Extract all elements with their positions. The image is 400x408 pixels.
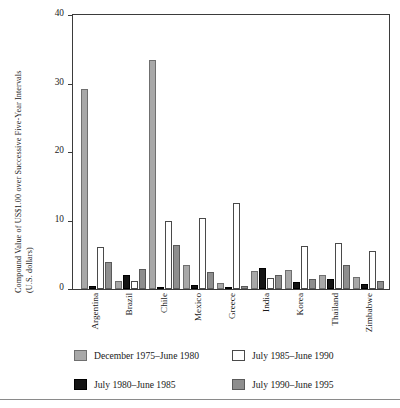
bottom-divider	[0, 399, 400, 400]
bar	[285, 270, 292, 289]
bar-group-zimbabwe	[351, 15, 385, 289]
chart-figure: Compound Value of US$1.00 over Successiv…	[0, 0, 400, 408]
legend-label: July 1985–June 1990	[252, 350, 334, 361]
bar	[293, 282, 300, 289]
bar	[275, 275, 282, 289]
bar	[97, 247, 104, 289]
y-tick-label: 30	[55, 77, 64, 87]
legend-swatch-icon	[232, 379, 245, 390]
plot-area: 010203040	[72, 14, 390, 290]
bar-group-korea	[283, 15, 317, 289]
x-axis-label-india: India	[261, 293, 271, 312]
bar	[115, 281, 122, 289]
bar	[157, 287, 164, 289]
bar	[173, 245, 180, 289]
legend-label: July 1990–June 1995	[252, 379, 334, 390]
bar-group-greece	[215, 15, 249, 289]
x-axis-label-chile: Chile	[159, 293, 169, 313]
legend-label: December 1975–June 1980	[94, 350, 199, 361]
bar	[343, 265, 350, 289]
y-tick-label: 0	[59, 282, 64, 292]
bar	[199, 218, 206, 289]
x-axis-label-thailand: Thailand	[330, 293, 340, 326]
bar	[217, 283, 224, 289]
x-axis-labels: ArgentinaBrazilChileMexicoGreeceIndiaKor…	[72, 292, 390, 342]
bar	[165, 221, 172, 289]
y-axis-title-line-1: Compound Value of US$1.00 over Successiv…	[13, 70, 24, 293]
legend-swatch-icon	[74, 379, 87, 390]
x-label-cell: India	[249, 292, 283, 342]
x-label-cell: Thailand	[318, 292, 352, 342]
bar	[149, 60, 156, 289]
legend-item: July 1985–June 1990	[232, 350, 384, 361]
x-axis-label-korea: Korea	[295, 293, 305, 315]
x-label-cell: Mexico	[181, 292, 215, 342]
legend-item: July 1990–June 1995	[232, 379, 384, 390]
x-axis-label-argentina: Argentina	[90, 293, 100, 330]
bar	[301, 246, 308, 289]
bar-group-mexico	[181, 15, 215, 289]
legend-label: July 1980–June 1985	[94, 379, 176, 390]
bar-group-brazil	[113, 15, 147, 289]
bar	[377, 281, 384, 289]
y-tick-label: 20	[55, 145, 64, 155]
x-axis-label-brazil: Brazil	[124, 293, 134, 315]
x-axis-label-greece: Greece	[227, 293, 237, 319]
y-tick-label: 40	[55, 8, 64, 18]
x-label-cell: Argentina	[78, 292, 112, 342]
x-label-cell: Korea	[283, 292, 317, 342]
bar	[327, 279, 334, 289]
bar	[131, 281, 138, 289]
bar	[335, 243, 342, 289]
y-tick-mark	[68, 289, 73, 290]
bar	[259, 268, 266, 289]
y-tick-label: 10	[55, 214, 64, 224]
bar	[207, 272, 214, 289]
bar	[241, 286, 248, 289]
bar	[123, 275, 130, 289]
bar-groups	[73, 15, 389, 289]
bar	[361, 284, 368, 289]
y-axis-title-line-2: (U.S. dollars)	[24, 247, 35, 293]
bar	[309, 279, 316, 289]
x-label-cell: Greece	[215, 292, 249, 342]
legend-item: July 1980–June 1985	[74, 379, 226, 390]
x-axis-label-zimbabwe: Zimbabwe	[364, 293, 374, 332]
bar	[267, 278, 274, 289]
bar	[81, 89, 88, 289]
x-label-cell: Zimbabwe	[352, 292, 386, 342]
bar	[105, 262, 112, 289]
bar-group-argentina	[79, 15, 113, 289]
bar	[233, 203, 240, 289]
bar-group-chile	[147, 15, 181, 289]
bar	[319, 275, 326, 289]
bar-group-india	[249, 15, 283, 289]
bar-group-thailand	[317, 15, 351, 289]
bar	[89, 286, 96, 289]
legend-swatch-icon	[74, 350, 87, 361]
bar	[251, 271, 258, 289]
bar	[191, 285, 198, 289]
bar	[139, 269, 146, 289]
x-axis-label-mexico: Mexico	[193, 293, 203, 321]
x-label-cell: Chile	[146, 292, 180, 342]
bar	[353, 277, 360, 289]
bar	[369, 251, 376, 289]
bar	[225, 287, 232, 289]
y-axis-title: Compound Value of US$1.00 over Successiv…	[2, 0, 36, 300]
legend-swatch-icon	[232, 350, 245, 361]
legend-item: December 1975–June 1980	[74, 350, 226, 361]
bar	[183, 265, 190, 289]
x-label-cell: Brazil	[112, 292, 146, 342]
chart-legend: December 1975–June 1980July 1985–June 19…	[74, 347, 384, 393]
